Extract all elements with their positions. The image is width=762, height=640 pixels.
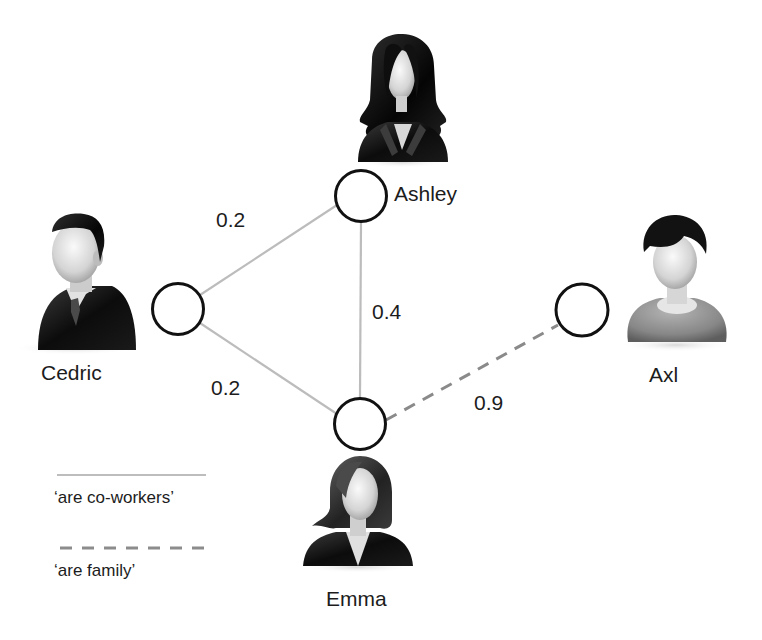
man-suit-tie-icon — [12, 214, 136, 355]
node-label-axl: Axl — [649, 364, 678, 385]
node-ashley[interactable] — [336, 171, 387, 222]
woman-long-hair-icon — [356, 34, 448, 168]
legend-label-co-workers: ‘are co-workers’ — [54, 489, 174, 506]
node-label-ashley: Ashley — [394, 183, 457, 204]
node-axl[interactable] — [556, 284, 608, 336]
legend — [57, 475, 206, 548]
edge-weight-emma-axl: 0.9 — [474, 392, 503, 413]
edge-cedric-emma — [200, 323, 337, 414]
node-label-emma: Emma — [326, 588, 387, 609]
node-label-cedric: Cedric — [41, 362, 102, 383]
edge-ashley-emma — [360, 222, 361, 398]
woman-bob-hair-icon — [302, 456, 414, 573]
edge-emma-axl — [386, 325, 558, 420]
edge-weight-cedric-ashley: 0.2 — [216, 209, 245, 230]
boy-casual-icon — [620, 215, 732, 352]
edge-weight-ashley-emma: 0.4 — [372, 301, 401, 322]
node-cedric[interactable] — [153, 284, 204, 335]
node-emma[interactable] — [335, 399, 386, 450]
legend-label-family: ‘are family’ — [54, 562, 135, 579]
edge-weight-cedric-emma: 0.2 — [211, 377, 240, 398]
